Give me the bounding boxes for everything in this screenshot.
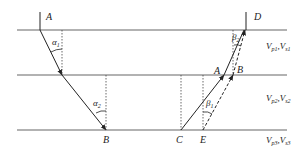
label-layer-1-velocity: Vp1,Vs1 (266, 41, 291, 52)
label-beta1: β1 (205, 98, 213, 109)
arc-beta1 (203, 112, 212, 114)
label-alpha2: α2 (93, 98, 101, 109)
ray-segment-1 (40, 30, 62, 75)
label-point-B-bottom: B (103, 134, 109, 145)
label-point-D: D (253, 11, 262, 22)
arc-alpha1 (51, 49, 62, 52)
label-beta2: β2 (231, 32, 239, 43)
label-point-B-mid: B (237, 64, 243, 75)
label-point-A-mid: A (213, 65, 221, 76)
label-point-C: C (176, 134, 183, 145)
label-alpha1: α1 (52, 37, 60, 48)
arc-alpha2 (96, 111, 106, 113)
label-point-A-top: A (45, 11, 53, 22)
label-point-E: E (199, 134, 206, 145)
label-layer-3-velocity: Vp3,Vs3 (266, 135, 291, 146)
seismic-ray-diagram: A D B C E A B α1 α2 β1 β2 Vp1,Vs1 Vp2,Vs… (0, 0, 303, 155)
diagram-canvas: A D B C E A B α1 α2 β1 β2 Vp1,Vs1 Vp2,Vs… (0, 0, 303, 155)
label-layer-2-velocity: Vp2,Vs2 (266, 93, 291, 104)
